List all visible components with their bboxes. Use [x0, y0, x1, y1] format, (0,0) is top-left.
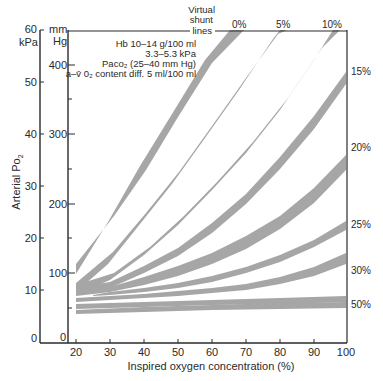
kpa-tick: 60: [25, 23, 37, 35]
shunt-label-15: 15%: [351, 66, 371, 77]
x-tick: 30: [104, 346, 116, 358]
shunt-label-25: 25%: [351, 219, 371, 230]
shunt-label-5: 5%: [276, 19, 291, 30]
shunt-label-30: 30%: [351, 265, 371, 276]
shunt-label-0: 0%: [232, 19, 247, 30]
x-tick: 100: [337, 346, 355, 358]
mmhg-tick: 300: [49, 128, 67, 140]
y-axis-title: Arterial Po2: [10, 154, 24, 209]
x-tick: 90: [308, 346, 320, 358]
kpa-tick: 30: [25, 180, 37, 192]
shunt-chart: kPa mm Hg 60 50 40 30 20 10 0 400 300 20…: [0, 0, 383, 381]
x-tick: 60: [206, 346, 218, 358]
conditions-annotation: Hb 10–14 g/100 ml 3.3–5.3 kPa Paco₂ (25–…: [66, 38, 197, 79]
x-tick-labels: 20 30 40 50 60 70 80 90 100: [70, 346, 355, 358]
mmhg-tick: 200: [49, 198, 67, 210]
kpa-tick: 0: [31, 332, 37, 344]
kpa-tick: 40: [25, 128, 37, 140]
legend-line: lines: [192, 25, 212, 36]
mmhg-unit-label-2: Hg: [53, 35, 67, 47]
x-tick: 40: [138, 346, 150, 358]
svg-text:Arterial Po2: Arterial Po2: [10, 154, 24, 209]
shunt-label-20: 20%: [351, 142, 371, 153]
x-tick: 70: [240, 346, 252, 358]
x-tick: 20: [70, 346, 82, 358]
kpa-tick: 50: [25, 76, 37, 88]
mmhg-unit-label-1: mm: [49, 23, 67, 35]
kpa-tick: 10: [25, 284, 37, 296]
x-tick: 80: [274, 346, 286, 358]
legend-title: Virtual shunt lines: [188, 4, 215, 36]
x-axis-title: Inspired oxygen concentration (%): [128, 360, 295, 372]
kpa-tick-labels: 60 50 40 30 20 10 0: [25, 23, 37, 344]
mmhg-tick: 100: [49, 267, 67, 279]
x-tick: 50: [172, 346, 184, 358]
kpa-tick: 20: [25, 232, 37, 244]
mmhg-tick: 0: [60, 331, 66, 343]
legend-line: shunt: [190, 14, 214, 25]
kpa-unit-label: kPa: [19, 36, 39, 48]
annotation-line: a–v̄ 0₂ content diff. 5 ml/100 ml: [66, 68, 196, 79]
mmhg-tick-labels: 400 300 200 100 0: [49, 59, 67, 343]
shunt-label-50: 50%: [351, 299, 371, 310]
mmhg-tick: 400: [49, 59, 67, 71]
shunt-label-10: 10%: [322, 19, 342, 30]
